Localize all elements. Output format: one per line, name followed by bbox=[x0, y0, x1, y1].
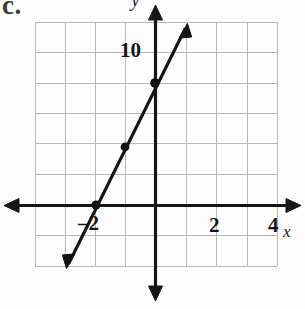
x-tick-label-2: 2 bbox=[209, 213, 220, 238]
x-tick-label-4: 4 bbox=[268, 213, 279, 238]
axes bbox=[4, 5, 301, 301]
part-label: c. bbox=[2, 0, 22, 21]
x-axis-label: x bbox=[283, 222, 291, 242]
plotted-line-arrow-upper bbox=[179, 24, 192, 39]
x-axis-arrow-left bbox=[4, 199, 19, 213]
graph-figure: c. y x 10 –2 2 4 bbox=[0, 0, 305, 309]
point-y-intercept bbox=[150, 78, 160, 88]
y-tick-label-10: 10 bbox=[120, 38, 141, 63]
y-axis-arrow-down bbox=[149, 286, 163, 301]
point-mid bbox=[121, 143, 130, 152]
x-tick-label-neg2: –2 bbox=[78, 211, 99, 236]
y-axis-label: y bbox=[131, 0, 140, 11]
y-axis-arrow-up bbox=[149, 5, 163, 20]
x-axis-arrow-right bbox=[286, 199, 301, 213]
point-x-intercept bbox=[91, 200, 100, 209]
coordinate-plane-svg bbox=[0, 0, 305, 309]
